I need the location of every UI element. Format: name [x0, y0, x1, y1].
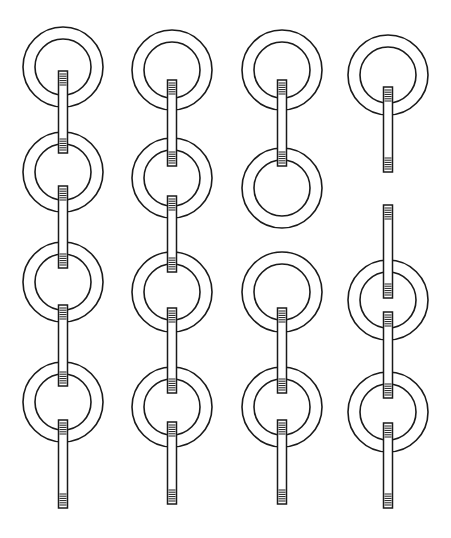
chain-column-4 [348, 35, 428, 508]
threaded-rod [384, 87, 393, 172]
chain-column-2 [132, 30, 212, 504]
threaded-rod [168, 308, 177, 393]
threaded-rod [168, 196, 177, 272]
chain-column-3 [242, 30, 322, 504]
threaded-rod [59, 420, 68, 508]
threaded-rod [384, 205, 393, 298]
threaded-rod [59, 186, 68, 268]
threaded-rod [59, 71, 68, 153]
chain-illustration [0, 0, 451, 538]
threaded-rod [278, 80, 287, 166]
chain-column-1 [23, 27, 103, 508]
threaded-rod [384, 423, 393, 508]
threaded-rod [168, 422, 177, 504]
threaded-rod [278, 420, 287, 504]
threaded-rod [278, 308, 287, 393]
threaded-rod [59, 305, 68, 386]
threaded-rod [168, 80, 177, 166]
threaded-rod [384, 312, 393, 398]
